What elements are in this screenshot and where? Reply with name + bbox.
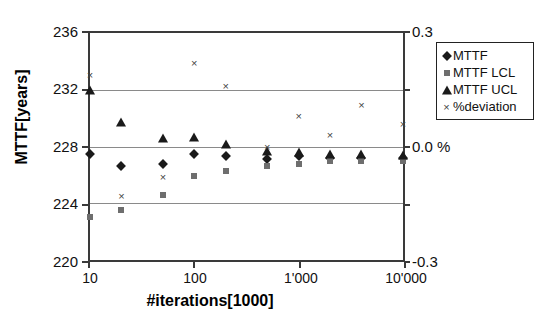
data-point-diamond xyxy=(116,161,126,171)
legend-item-label: %deviation xyxy=(453,100,517,113)
data-point-cross: × xyxy=(357,100,366,109)
plot-area: ×××××××××× xyxy=(88,31,405,262)
data-point-diamond xyxy=(189,149,199,159)
diamond-icon xyxy=(441,50,452,61)
data-point-triangle xyxy=(221,139,231,148)
x-tick-label: 10'000 xyxy=(385,270,427,286)
square-icon xyxy=(441,67,452,78)
data-point-triangle xyxy=(158,133,168,142)
cross-icon: × xyxy=(441,101,452,112)
data-point-triangle xyxy=(398,151,408,160)
data-point-square xyxy=(223,168,229,174)
data-point-triangle xyxy=(294,148,304,157)
data-point-triangle xyxy=(116,118,126,127)
data-point-square xyxy=(264,163,270,169)
data-point-cross: × xyxy=(399,119,408,128)
legend-item: MTTF LCL xyxy=(441,64,530,81)
gridline xyxy=(90,147,403,148)
data-point-cross: × xyxy=(117,191,126,200)
data-point-cross: × xyxy=(86,70,95,79)
data-point-triangle xyxy=(85,85,95,94)
legend-item: ×%deviation xyxy=(441,98,530,115)
legend-item-label: MTTF LCL xyxy=(453,66,515,79)
data-point-triangle xyxy=(356,149,366,158)
data-point-diamond xyxy=(85,149,95,159)
y-tick-label-right: -0.3 xyxy=(412,254,438,269)
data-point-cross: × xyxy=(263,142,272,151)
data-point-cross: × xyxy=(326,131,335,140)
legend-item: MTTF UCL xyxy=(441,81,530,98)
gridline xyxy=(90,90,403,91)
gridline xyxy=(90,203,403,204)
data-point-diamond xyxy=(158,159,168,169)
data-point-square xyxy=(160,192,166,198)
data-point-cross: × xyxy=(294,112,303,121)
data-point-diamond xyxy=(221,151,231,161)
x-tick-mark xyxy=(193,262,195,268)
x-tick-label: 1'000 xyxy=(284,270,318,286)
data-point-square xyxy=(191,173,197,179)
data-point-cross: × xyxy=(221,81,230,90)
x-tick-mark xyxy=(88,262,90,268)
chart-legend: MTTFMTTF LCLMTTF UCL×%deviation xyxy=(436,42,534,120)
x-axis-title: #iterations[1000] xyxy=(0,292,420,310)
data-point-square xyxy=(296,161,302,167)
y-tick-label-right: 0.3 xyxy=(412,24,433,39)
y-tick-label-left: 220 xyxy=(53,254,78,269)
y-tick-label-left: 236 xyxy=(53,24,78,39)
x-tick-label: 10 xyxy=(82,270,98,286)
data-point-triangle xyxy=(189,132,199,141)
data-point-cross: × xyxy=(158,172,167,181)
y-tick-label-left: 224 xyxy=(53,196,78,211)
y-tick-label-left: 228 xyxy=(53,139,78,154)
y-axis-title: MTTF[years] xyxy=(13,47,31,187)
data-point-cross: × xyxy=(190,59,199,68)
data-point-square xyxy=(87,214,93,220)
triangle-icon xyxy=(441,84,452,95)
data-point-square xyxy=(118,207,124,213)
y-tick-label-left: 232 xyxy=(53,81,78,96)
x-tick-mark xyxy=(299,262,301,268)
x-tick-mark xyxy=(404,262,406,268)
chart-figure: MTTF[years] 236 232 228 224 220 0.3 0.0 … xyxy=(0,0,549,329)
legend-item-label: MTTF UCL xyxy=(453,83,517,96)
data-point-square xyxy=(358,158,364,164)
legend-item-label: MTTF xyxy=(453,49,488,62)
x-tick-label: 100 xyxy=(183,270,206,286)
data-point-triangle xyxy=(325,149,335,158)
legend-item: MTTF xyxy=(441,47,530,64)
y-tick-label-right: 0.0 % xyxy=(412,139,450,154)
data-point-square xyxy=(327,158,333,164)
